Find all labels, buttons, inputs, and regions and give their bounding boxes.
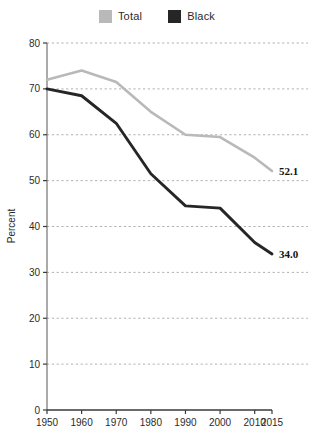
y-tick-label: 50	[29, 175, 41, 186]
chart-figure: Total Black 01020304050607080 1950196019…	[0, 0, 314, 433]
series-line-black	[47, 89, 272, 254]
x-tick-label: 1970	[105, 417, 128, 428]
x-tick-label: 1950	[36, 417, 59, 428]
y-tick-label: 0	[34, 405, 40, 416]
x-tick-label: 1960	[70, 417, 93, 428]
y-tick-label: 10	[29, 359, 41, 370]
x-tick-label: 1990	[174, 417, 197, 428]
y-axis-title: Percent	[6, 209, 17, 244]
y-tick-label: 80	[29, 38, 41, 49]
y-tick-label: 20	[29, 313, 41, 324]
plot-area: 01020304050607080 1950196019701980199020…	[0, 0, 314, 433]
y-tick-label: 70	[29, 83, 41, 94]
y-gridlines	[47, 43, 308, 364]
series-line-total	[47, 71, 272, 171]
y-tick-label: 60	[29, 129, 41, 140]
x-tick-label: 2015	[261, 417, 284, 428]
y-tick-label: 30	[29, 267, 41, 278]
x-tick-label: 2000	[209, 417, 232, 428]
x-tick-label: 1980	[140, 417, 163, 428]
x-tick-labels: 19501960197019801990200020102015	[36, 417, 284, 428]
end-label-total: 52.1	[279, 165, 298, 177]
y-tick-label: 40	[29, 221, 41, 232]
y-tick-labels: 01020304050607080	[29, 38, 41, 416]
end-label-black: 34.0	[279, 248, 299, 260]
